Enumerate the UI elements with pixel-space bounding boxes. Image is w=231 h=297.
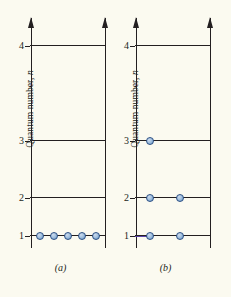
energy-level-1-b: 1: [135, 235, 211, 236]
electron: [146, 194, 154, 202]
electron: [176, 232, 184, 240]
level-tick-3-a: [25, 141, 30, 142]
panel-caption-b: (b): [113, 262, 218, 273]
energy-level-diagram: Quantum number, n 4 3 2: [0, 0, 231, 297]
energy-level-3-b: 3: [135, 140, 211, 141]
electron: [146, 232, 154, 240]
electron: [36, 232, 44, 240]
level-label-2-b: 2: [117, 193, 129, 203]
level-label-1-b: 1: [117, 231, 129, 241]
level-label-4-b: 4: [117, 41, 129, 51]
electron: [64, 232, 72, 240]
well-wall-left-a: [31, 18, 32, 248]
level-tick-1-a: [25, 236, 30, 237]
arrow-up-icon: [102, 17, 108, 28]
panel-b: Quantum number, n 4 3 2: [113, 0, 218, 297]
well-wall-left-b: [136, 18, 137, 248]
electron: [176, 194, 184, 202]
electron: [50, 232, 58, 240]
electron: [78, 232, 86, 240]
level-label-4-a: 4: [12, 41, 24, 51]
well-wall-right-a: [105, 18, 106, 248]
energy-level-4-b: 4: [135, 45, 211, 46]
energy-level-2-a: 2: [30, 197, 106, 198]
electron: [146, 137, 154, 145]
energy-level-2-b: 2: [135, 197, 211, 198]
level-label-3-a: 3: [12, 136, 24, 146]
panel-caption-a: (a): [8, 262, 113, 273]
level-label-1-a: 1: [12, 231, 24, 241]
level-tick-4-a: [25, 46, 30, 47]
panel-a: Quantum number, n 4 3 2: [8, 0, 113, 297]
energy-level-1-a: 1: [30, 235, 106, 236]
arrow-up-icon: [133, 17, 139, 28]
electron: [92, 232, 100, 240]
energy-level-4-a: 4: [30, 45, 106, 46]
arrow-up-icon: [28, 17, 34, 28]
level-tick-3-b: [130, 141, 135, 142]
plot-area-b: 4 3 2 1: [135, 18, 211, 248]
level-label-3-b: 3: [117, 136, 129, 146]
level-tick-4-b: [130, 46, 135, 47]
level-label-2-a: 2: [12, 193, 24, 203]
energy-level-3-a: 3: [30, 140, 106, 141]
well-wall-right-b: [210, 18, 211, 248]
plot-area-a: 4 3 2 1: [30, 18, 106, 248]
arrow-up-icon: [207, 17, 213, 28]
level-tick-2-b: [130, 198, 135, 199]
level-tick-2-a: [25, 198, 30, 199]
